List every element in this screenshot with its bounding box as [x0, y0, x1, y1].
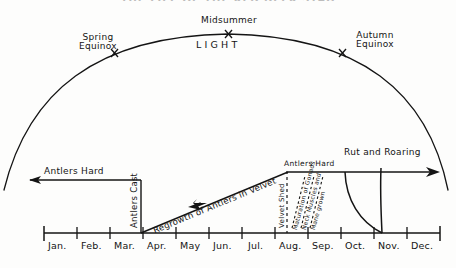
month-label-mar: Mar.: [114, 241, 135, 251]
month-label-oct: Oct.: [345, 241, 365, 251]
month-label-sep: Sep.: [312, 241, 334, 251]
month-label-may: May: [180, 241, 200, 251]
rut-vertical-return: [381, 168, 382, 233]
autumn-equinox-marker: [339, 49, 346, 57]
month-label-feb: Feb.: [81, 241, 102, 251]
spring-equinox-label-line2: Equinox: [79, 41, 117, 51]
month-label-apr: Apr.: [147, 241, 166, 251]
rut-descent-curve: [345, 172, 382, 233]
month-label-jun: Jun.: [213, 241, 232, 251]
midsummer-label: Midsummer: [194, 16, 264, 25]
month-label-jan: Jan.: [48, 241, 66, 251]
antlers-hard-winter-label: Antlers Hard: [44, 167, 104, 176]
autumn-equinox-label: Autumn Equinox: [347, 31, 403, 50]
light-label: LIGHT: [196, 40, 240, 50]
month-label-jul: Jul.: [248, 241, 263, 251]
month-label-nov: Nov.: [378, 241, 400, 251]
month-label-aug: Aug.: [279, 241, 301, 251]
month-label-dec: Dec.: [411, 241, 433, 251]
velvet-shed-label: Velvet Shed: [279, 183, 286, 228]
rut-and-roaring-label: Rut and Roaring: [344, 148, 421, 157]
antlers-cast-label: Antlers Cast: [130, 173, 139, 228]
autumn-equinox-label-line2: Equinox: [356, 39, 394, 49]
spring-equinox-label: Spring Equinox: [70, 33, 126, 52]
figure-canvas: THE LIFE OF THE RED DEER STAG: [0, 0, 456, 268]
